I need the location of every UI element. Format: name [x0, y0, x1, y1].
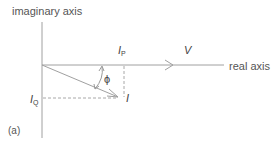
iq-label-subscript: Q	[33, 99, 38, 106]
phase-angle-label: ϕ	[104, 74, 110, 85]
ip-label-subscript: P	[121, 50, 126, 57]
ip-label: IP	[118, 45, 126, 57]
panel-label: (a)	[8, 126, 20, 136]
voltage-label: V	[184, 45, 191, 56]
phase-angle-arrowhead-top-icon	[99, 66, 104, 71]
current-label: I	[126, 93, 129, 104]
phasor-diagram	[0, 0, 278, 148]
real-axis-label: real axis	[229, 61, 270, 72]
imaginary-axis-label: imaginary axis	[12, 6, 82, 17]
iq-label: IQ	[30, 94, 39, 106]
